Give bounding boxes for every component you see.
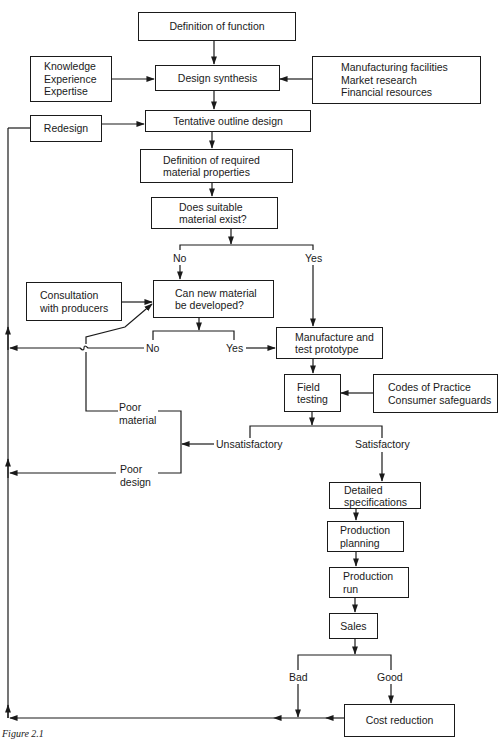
edge-label-develop-no: No <box>145 342 160 355</box>
edge-label-line: Poor <box>119 401 156 414</box>
node-production-run: Production run <box>329 567 409 598</box>
node-redesign: Redesign <box>30 115 102 142</box>
edge-label-poor-material: Poor material <box>119 401 156 426</box>
edge-label-poor-design: Poor design <box>120 463 151 488</box>
node-label: Consultation <box>40 289 98 302</box>
node-label: Manufacturing facilities <box>341 61 448 74</box>
node-prototype: Manufacture and test prototype <box>276 327 383 359</box>
node-codes-of-practice: Codes of Practice Consumer safeguards <box>373 374 498 413</box>
node-label: Knowledge <box>44 60 96 73</box>
node-label: run <box>343 583 358 596</box>
node-label: Definition of required <box>163 154 260 167</box>
node-label: Codes of Practice <box>388 381 471 394</box>
node-label: specifications <box>344 496 407 508</box>
node-consultation: Consultation with producers <box>26 282 122 321</box>
node-production-planning: Production planning <box>327 521 404 552</box>
node-label: Experience <box>44 73 97 86</box>
node-label: Definition of function <box>169 20 264 33</box>
node-label: Field <box>297 381 320 394</box>
edge-label-exist-yes: Yes <box>305 252 322 265</box>
node-label: Sales <box>340 620 366 633</box>
node-inputs-knowledge: Knowledge Experience Expertise <box>30 56 112 102</box>
node-tentative-outline-design: Tentative outline design <box>145 110 311 132</box>
edge-label-good: Good <box>377 671 403 684</box>
edge-label-line: design <box>120 476 151 489</box>
node-label: Redesign <box>44 122 88 135</box>
node-definition-of-function: Definition of function <box>138 12 296 41</box>
node-label: Expertise <box>44 85 88 98</box>
node-label: Detailed <box>344 484 383 496</box>
edge-label-bad: Bad <box>289 671 308 684</box>
edge-label-line: Poor <box>120 463 151 476</box>
node-label: Design synthesis <box>178 72 257 85</box>
node-label: planning <box>340 537 380 550</box>
node-inputs-resources: Manufacturing facilities Market research… <box>312 56 481 104</box>
node-label: Manufacture and <box>295 331 374 344</box>
node-label: Can new material <box>175 287 257 300</box>
node-label: be developed? <box>175 299 244 312</box>
edge-label-line: material <box>119 414 156 427</box>
node-label: Production <box>340 524 390 537</box>
node-sales: Sales <box>329 613 378 639</box>
node-label: Market research <box>341 74 417 87</box>
node-label: Production <box>343 570 393 583</box>
node-design-synthesis: Design synthesis <box>155 65 280 91</box>
node-cost-reduction: Cost reduction <box>344 704 455 737</box>
node-field-testing: Field testing <box>284 374 341 412</box>
figure-caption: Figure 2.1 <box>2 728 44 739</box>
node-label: Consumer safeguards <box>388 394 491 407</box>
node-material-exists: Does suitable material exist? <box>151 197 278 229</box>
node-label: Does suitable <box>179 201 243 214</box>
node-label: material exist? <box>179 213 247 226</box>
node-label: testing <box>297 393 328 406</box>
node-label: Financial resources <box>341 86 432 99</box>
node-label: test prototype <box>295 343 359 356</box>
node-label: material properties <box>163 166 250 179</box>
node-detailed-specifications: Detailed specifications <box>329 482 421 509</box>
edge-label-unsatisfactory: Unsatisfactory <box>216 438 283 451</box>
node-new-material: Can new material be developed? <box>153 280 274 318</box>
node-label: Cost reduction <box>366 714 434 727</box>
edge-label-develop-yes: Yes <box>226 342 243 355</box>
node-required-properties: Definition of required material properti… <box>140 149 293 183</box>
edge-label-exist-no: No <box>173 252 186 265</box>
edge-label-satisfactory: Satisfactory <box>355 438 410 451</box>
node-label: Tentative outline design <box>173 115 283 128</box>
node-label: with producers <box>40 302 108 315</box>
